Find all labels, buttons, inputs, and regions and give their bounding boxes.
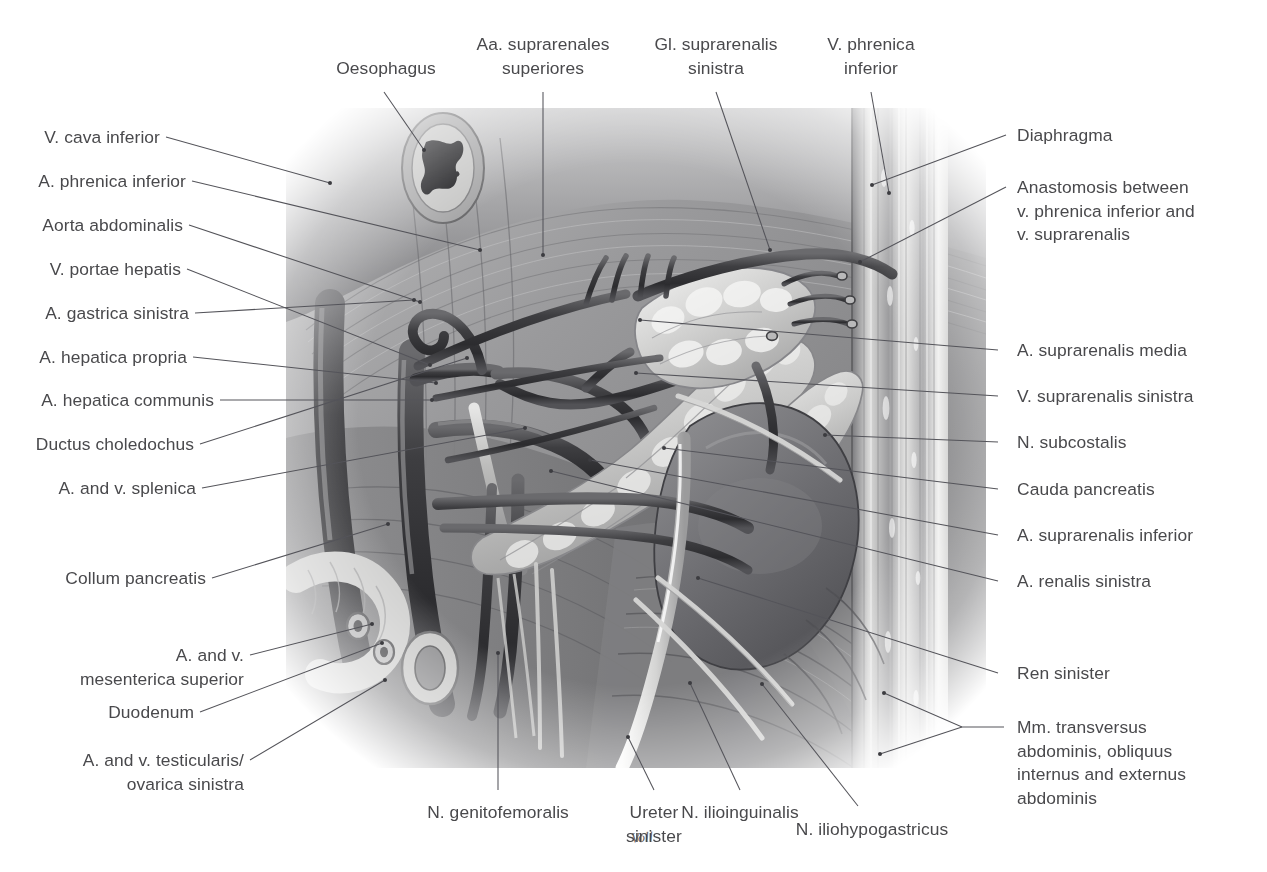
label-a-renalis-sinistra: A. renalis sinistra <box>1017 570 1267 594</box>
label-cauda-pancreatis: Cauda pancreatis <box>1017 478 1267 502</box>
label-diaphragma: Diaphragma <box>1017 124 1267 148</box>
label-collum-pancreatis: Collum pancreatis <box>0 567 206 591</box>
label-a-gastrica-sinistra: A. gastrica sinistra <box>0 302 189 326</box>
label-v-suprarenalis-sinistra: V. suprarenalis sinistra <box>1017 385 1267 409</box>
anatomical-illustration: Voll <box>286 108 986 768</box>
label-anastomosis-phrenica-suprarenalis: Anastomosis between v. phrenica inferior… <box>1017 176 1267 247</box>
label-a-hepatica-propria: A. hepatica propria <box>0 346 187 370</box>
label-mm-transversus-obliquus: Mm. transversus abdominis, obliquus inte… <box>1017 716 1267 810</box>
label-gl-suprarenalis-sinistra: Gl. suprarenalis sinistra <box>626 33 806 80</box>
label-v-phrenica-inferior: V. phrenica inferior <box>791 33 951 80</box>
label-v-cava-inferior: V. cava inferior <box>0 126 160 150</box>
label-duodenum: Duodenum <box>0 701 194 725</box>
label-n-genitofemoralis: N. genitofemoralis <box>398 801 598 825</box>
label-v-portae-hepatis: V. portae hepatis <box>0 258 181 282</box>
page-footer-rule <box>10 856 530 868</box>
label-a-and-v-mesenterica-superior: A. and v. mesenterica superior <box>0 644 244 691</box>
label-a-phrenica-inferior: A. phrenica inferior <box>0 170 186 194</box>
label-a-suprarenalis-inferior: A. suprarenalis inferior <box>1017 524 1267 548</box>
label-n-iliohypogastricus: N. iliohypogastricus <box>772 818 972 842</box>
label-a-suprarenalis-media: A. suprarenalis media <box>1017 339 1267 363</box>
label-a-and-v-splenica: A. and v. splenica <box>0 477 196 501</box>
label-n-subcostalis: N. subcostalis <box>1017 431 1267 455</box>
label-ren-sinister: Ren sinister <box>1017 662 1267 686</box>
label-aorta-abdominalis: Aorta abdominalis <box>0 214 183 238</box>
label-aa-suprarenales-superiores: Aa. suprarenales superiores <box>443 33 643 80</box>
label-a-and-v-testicularis-ovarica-sinistra: A. and v. testicularis/ ovarica sinistra <box>0 749 244 796</box>
figure-plate: Voll <box>0 0 1267 872</box>
label-a-hepatica-communis: A. hepatica communis <box>0 389 214 413</box>
label-ductus-choledochus: Ductus choledochus <box>0 433 194 457</box>
